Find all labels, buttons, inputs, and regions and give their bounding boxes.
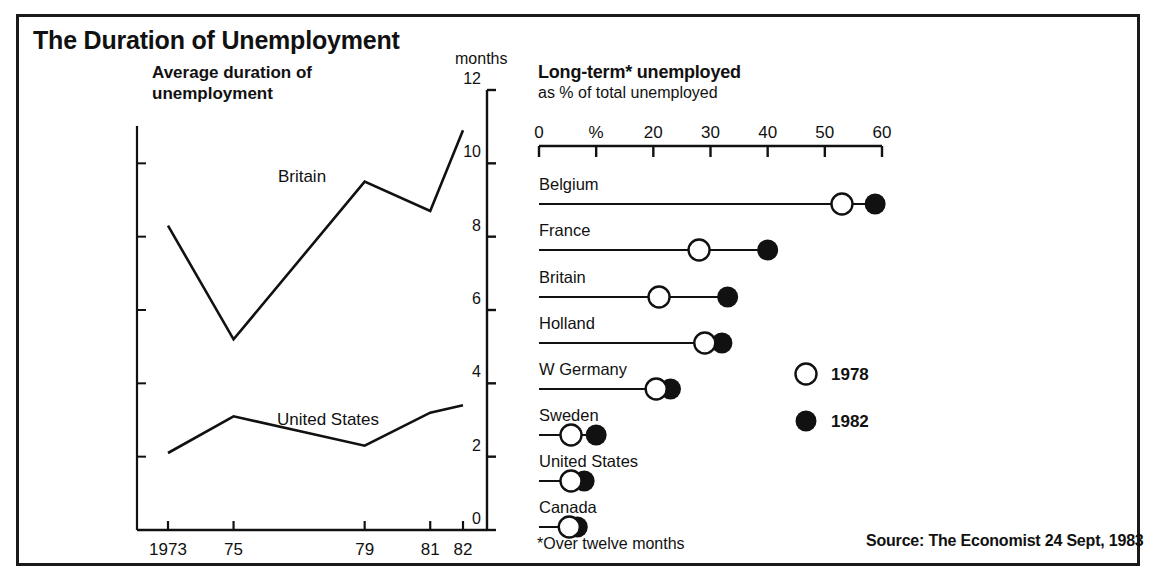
country-label-france: France: [539, 221, 590, 239]
dot-chart-rows: BelgiumFranceBritainHollandW GermanySwed…: [539, 175, 886, 538]
percent-scale-ticks: [539, 146, 882, 157]
dot-row: France: [539, 221, 778, 261]
legend-label-1982: 1982: [831, 412, 869, 431]
country-label-britain: Britain: [539, 268, 586, 286]
percent-scale-tick-label: 30: [701, 123, 720, 142]
dot-1978-united-states: [561, 471, 582, 492]
dot-1982-britain: [717, 287, 738, 308]
dot-row: Britain: [539, 268, 738, 308]
dot-1978-w-germany: [646, 379, 667, 400]
dot-1978-holland: [694, 333, 715, 354]
legend-marker-1982: [796, 411, 817, 432]
dot-1978-sweden: [561, 425, 582, 446]
dot-1978-britain: [649, 287, 670, 308]
percent-scale-tick-label: %: [589, 123, 604, 142]
chart-figure: The Duration of Unemployment Average dur…: [0, 0, 1156, 582]
percent-scale-tick-label: 50: [815, 123, 834, 142]
dot-1982-france: [757, 240, 778, 261]
country-label-united-states: United States: [539, 452, 638, 470]
dot-row: Holland: [539, 314, 732, 354]
dot-row: Sweden: [539, 406, 607, 446]
dot-1978-canada: [559, 517, 580, 538]
legend-label-1978: 1978: [831, 365, 869, 384]
legend-marker-1978: [796, 364, 817, 385]
dot-chart-legend: 19781982: [796, 364, 869, 432]
dot-row: W Germany: [539, 360, 681, 400]
dot-row: Canada: [539, 498, 598, 538]
dot-chart: 0%2030405060 BelgiumFranceBritainHolland…: [0, 0, 1156, 582]
dot-1982-belgium: [865, 194, 886, 215]
dot-1978-belgium: [831, 194, 852, 215]
dot-1978-france: [689, 240, 710, 261]
percent-scale-tick-label: 60: [873, 123, 892, 142]
country-label-belgium: Belgium: [539, 175, 599, 193]
dot-row: United States: [539, 452, 638, 492]
country-label-holland: Holland: [539, 314, 595, 332]
country-label-sweden: Sweden: [539, 406, 599, 424]
percent-scale-tick-label: 40: [758, 123, 777, 142]
percent-scale-tick-label: 20: [644, 123, 663, 142]
percent-scale-tick-labels: 0%2030405060: [534, 123, 891, 142]
dot-chart-scale: [539, 146, 882, 157]
percent-scale-tick-label: 0: [534, 123, 543, 142]
country-label-w-germany: W Germany: [539, 360, 628, 378]
country-label-canada: Canada: [539, 498, 598, 516]
dot-1982-sweden: [586, 425, 607, 446]
dot-row: Belgium: [539, 175, 886, 215]
